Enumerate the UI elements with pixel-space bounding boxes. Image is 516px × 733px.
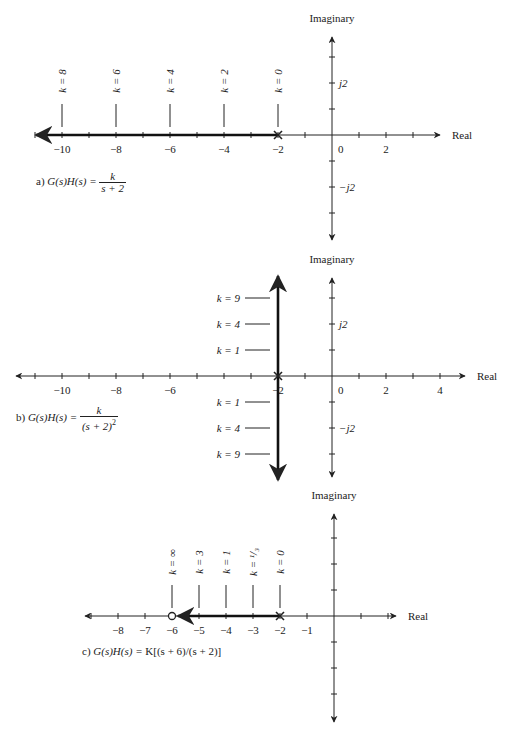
caption-lhs: G(s)H(s) =: [47, 175, 96, 187]
real-tick-label: −8: [110, 384, 122, 396]
real-tick-label: −5: [193, 624, 205, 636]
real-tick-label: −3: [247, 624, 259, 636]
k-marker-label: k = ∞: [166, 549, 178, 575]
caption-lhs: G(s)H(s) =: [28, 411, 77, 423]
real-tick-label: −7: [139, 624, 151, 636]
k-marker-label: k = 3: [193, 550, 205, 574]
caption-a: a) G(s)H(s) = k s + 2: [36, 171, 126, 194]
caption-b: b) G(s)H(s) = k (s + 2)2: [16, 405, 118, 432]
k-marker-label: k = 8: [56, 69, 68, 93]
real-tick-label: −2: [274, 624, 286, 636]
diagram-c: −8−7−6−5−4−3−2−1ImaginaryRealk = ∞k = 3k…: [85, 489, 428, 722]
imaginary-tick-label: −j2: [339, 422, 355, 434]
real-tick-label: −6: [164, 384, 176, 396]
caption-prefix: c): [82, 645, 91, 657]
real-tick-label: −2: [272, 143, 284, 155]
caption-lhs: G(s)H(s) =: [93, 645, 142, 657]
k-marker-label: k = 2: [218, 69, 230, 93]
real-tick-label: −6: [164, 143, 176, 155]
caption-exponent: 2: [112, 418, 116, 427]
root-locus-figure: −10−8−6−4−202j2−j2ImaginaryRealk = 8k = …: [0, 0, 516, 733]
imaginary-tick-label: j2: [337, 318, 348, 330]
real-tick-label: −1: [301, 624, 313, 636]
real-tick-label: −4: [220, 624, 232, 636]
real-axis-title: Real: [477, 370, 497, 382]
real-tick-label: −6: [166, 624, 178, 636]
real-axis-title: Real: [452, 129, 472, 141]
zero-circle-icon: [169, 613, 176, 620]
diagram-b: −10−8−6−2024j2−j2ImaginaryRealk = 9k = 4…: [16, 253, 497, 480]
k-marker-label: k = ¹/₃: [247, 548, 259, 576]
imaginary-axis-title: Imaginary: [309, 12, 355, 24]
caption-denominator: s + 2: [99, 183, 126, 194]
k-marker-label: k = 6: [110, 69, 122, 93]
diagram-a: −10−8−6−4−202j2−j2ImaginaryRealk = 8k = …: [35, 12, 472, 240]
real-tick-label: 0: [338, 143, 344, 155]
caption-denominator-wrap: (s + 2)2: [80, 417, 118, 432]
k-marker-label: k = 0: [274, 550, 286, 574]
caption-denominator: (s + 2): [82, 420, 112, 432]
real-tick-label: 0: [338, 384, 344, 396]
k-marker-label: k = 1: [217, 344, 240, 356]
caption-prefix: b): [16, 411, 25, 423]
k-marker-label: k = 1: [220, 550, 232, 573]
k-marker-label: k = 1: [217, 396, 240, 408]
k-marker-label: k = 9: [217, 448, 241, 460]
imaginary-axis-title: Imaginary: [311, 489, 357, 501]
imaginary-tick-label: j2: [337, 77, 348, 89]
k-marker-label: k = 9: [217, 292, 241, 304]
caption-prefix: a): [36, 175, 45, 187]
k-marker-label: k = 4: [217, 422, 241, 434]
real-tick-label: 2: [383, 143, 389, 155]
caption-fraction: k (s + 2)2: [80, 405, 118, 432]
real-tick-label: −8: [110, 143, 122, 155]
caption-numerator: k: [80, 405, 118, 417]
caption-fraction: k s + 2: [99, 171, 126, 194]
caption-rest: K[(s + 6)/(s + 2)]: [145, 645, 221, 657]
imaginary-tick-label: −j2: [339, 181, 355, 193]
real-tick-label: −10: [53, 384, 71, 396]
k-marker-label: k = 4: [217, 318, 241, 330]
real-tick-label: 2: [383, 384, 389, 396]
real-tick-label: 4: [437, 384, 443, 396]
k-marker-label: k = 4: [164, 69, 176, 93]
real-axis-title: Real: [408, 610, 428, 622]
k-marker-label: k = 0: [272, 69, 284, 93]
real-tick-label: −8: [112, 624, 124, 636]
imaginary-axis-title: Imaginary: [309, 253, 355, 265]
caption-c: c) G(s)H(s) = K[(s + 6)/(s + 2)]: [82, 645, 221, 657]
real-tick-label: −4: [218, 143, 230, 155]
real-tick-label: −10: [53, 143, 71, 155]
